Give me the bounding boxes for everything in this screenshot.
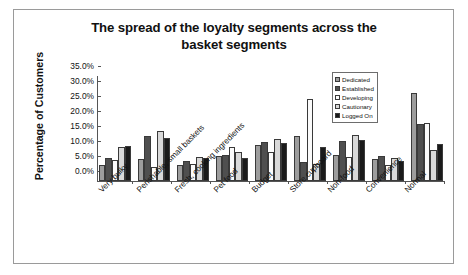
legend-swatch-icon <box>335 77 340 82</box>
legend-item[interactable]: Logged On <box>335 111 374 120</box>
legend-swatch-icon <box>335 95 340 100</box>
x-axis-tick-mark <box>210 181 211 184</box>
y-axis-tick-label: 35.0% <box>70 61 98 71</box>
legend-item[interactable]: Dedicated <box>335 75 374 84</box>
y-axis-tick-label: 15.0% <box>70 121 98 131</box>
chart-frame: The spread of the loyalty segments acros… <box>13 9 454 264</box>
x-axis-tick-mark <box>444 181 445 184</box>
y-axis-tick-label: 10.0% <box>70 136 98 146</box>
chart-title: The spread of the loyalty segments acros… <box>44 19 424 53</box>
legend-swatch-icon <box>335 104 340 109</box>
bar[interactable] <box>242 158 248 181</box>
y-axis-tick-label: 25.0% <box>70 91 98 101</box>
legend-label: Developing <box>342 94 373 101</box>
legend-item[interactable]: Developing <box>335 93 374 102</box>
x-axis-tick-mark <box>288 181 289 184</box>
bar-group <box>410 76 444 181</box>
legend-swatch-icon <box>335 86 340 91</box>
y-axis-tick-label: 20.0% <box>70 106 98 116</box>
legend-label: Logged On <box>342 112 373 119</box>
x-axis-tick-mark <box>249 181 250 184</box>
chart-legend: DedicatedEstablishedDevelopingCautionary… <box>332 72 378 123</box>
legend-item[interactable]: Established <box>335 84 374 93</box>
x-axis-tick-mark <box>327 181 328 184</box>
x-axis-tick-mark <box>171 181 172 184</box>
legend-label: Established <box>342 85 374 92</box>
chart-title-line-1: The spread of the loyalty segments acros… <box>44 19 424 36</box>
legend-label: Dedicated <box>342 76 370 83</box>
bar[interactable] <box>281 143 287 181</box>
y-axis-title: Percentage of Customers <box>33 51 45 181</box>
y-axis-tick-label: 5.0% <box>75 151 98 161</box>
x-axis-labels: Very bulkyPerishable, small basketsFresh… <box>97 186 447 256</box>
legend-item[interactable]: Cautionary <box>335 102 374 111</box>
x-axis-tick-mark <box>132 181 133 184</box>
bar[interactable] <box>437 144 443 181</box>
chart-title-line-2: basket segments <box>44 36 424 53</box>
bar-group <box>254 76 288 181</box>
y-axis-tick-label: 30.0% <box>70 76 98 86</box>
legend-swatch-icon <box>335 113 340 118</box>
bar[interactable] <box>359 140 365 181</box>
legend-label: Cautionary <box>342 103 372 110</box>
y-axis-tick-label: 0.0% <box>75 166 98 176</box>
